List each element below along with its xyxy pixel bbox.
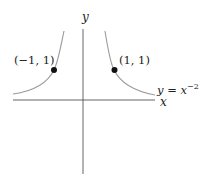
function-eq: = [164,83,181,97]
y-axis-label: y [81,10,89,24]
point-label-1-1: (1, 1) [119,53,150,67]
point-label-neg1-1: (−1, 1) [14,53,55,67]
graph-canvas: y x (−1, 1) (1, 1) y = x−2 [0,0,208,178]
point-neg1-1 [51,67,57,73]
function-label: y = x−2 [156,82,199,97]
x-axis-label: x [160,95,167,109]
point-1-1 [112,67,118,73]
function-exponent: −2 [187,82,199,91]
